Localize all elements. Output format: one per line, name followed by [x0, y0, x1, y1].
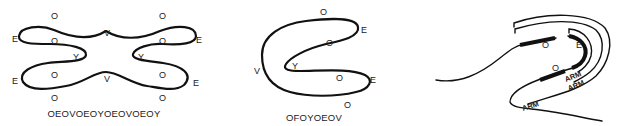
label-inner-lower-left-o: O — [51, 70, 58, 80]
label-bottom-v: V — [104, 74, 110, 84]
label-inner-upper-right-o: O — [159, 36, 166, 46]
label-bottom-left-o: O — [51, 93, 58, 103]
label-inner-lower-o: O — [336, 73, 343, 83]
figure-2: O E O V Y O E O OFOYOEOV — [254, 7, 376, 123]
label-o-upper: O — [542, 40, 549, 50]
label-left-lower-e: E — [12, 76, 18, 86]
label-bottom-o: O — [344, 100, 351, 110]
label-top-v: V — [104, 28, 110, 38]
figure-2-curve — [262, 19, 370, 96]
label-bottom-right-o: O — [159, 93, 166, 103]
figure-2-caption: OFOYOEOV — [286, 112, 342, 123]
label-upper-e: E — [361, 25, 367, 35]
label-left-upper-e: E — [12, 34, 18, 44]
label-y: Y — [292, 61, 298, 71]
figure-1: O O E E O O V Y Y O O V E E O O OEOVOEOY… — [12, 11, 202, 119]
label-e: E — [576, 40, 582, 50]
diagram-canvas: O O E E O O V Y Y O O V E E O O OEOVOEOY… — [0, 0, 630, 126]
label-right-upper-e: E — [196, 35, 202, 45]
label-o-lower: O — [552, 63, 559, 73]
figure-3: O E O ARM ARM ARM — [436, 15, 610, 121]
label-v: V — [254, 66, 260, 76]
label-left-y: Y — [73, 52, 79, 62]
label-inner-upper-o: O — [326, 38, 333, 48]
label-arm-3: ARM — [521, 99, 540, 113]
arm-bracket-3 — [514, 15, 610, 104]
label-inner-lower-right-o: O — [159, 70, 166, 80]
label-top-o: O — [320, 7, 327, 17]
label-top-left-o: O — [51, 11, 58, 21]
figure-1-caption: OEOVOEOYOEOVOEOY — [47, 108, 160, 119]
label-right-lower-e: E — [193, 78, 199, 88]
label-top-right-o: O — [159, 11, 166, 21]
label-inner-upper-left-o: O — [51, 36, 58, 46]
label-right-y: Y — [138, 52, 144, 62]
label-lower-e: E — [370, 75, 376, 85]
figure-3-bound-segment-upper — [520, 38, 555, 45]
